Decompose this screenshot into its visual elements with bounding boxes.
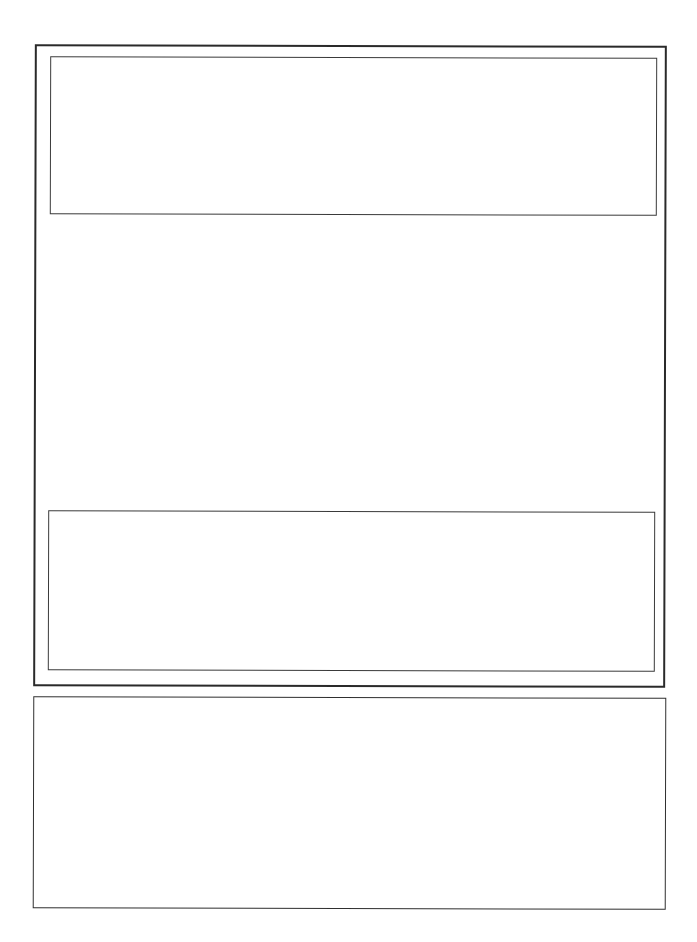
top-input-box	[50, 56, 657, 216]
bottom-input-box	[33, 696, 667, 910]
middle-input-box	[48, 510, 655, 672]
